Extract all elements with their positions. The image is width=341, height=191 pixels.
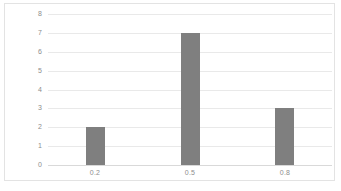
- x-tick-label: 0.8: [280, 168, 290, 178]
- x-tick-label: 0.2: [90, 168, 100, 178]
- gridline: [48, 165, 332, 166]
- y-tick-label: 1: [16, 142, 42, 150]
- y-tick-label: 4: [16, 86, 42, 94]
- bar[interactable]: [275, 108, 294, 165]
- plot-area: [48, 14, 332, 165]
- y-tick-label: 6: [16, 48, 42, 56]
- bar[interactable]: [86, 127, 105, 165]
- y-tick-label: 2: [16, 123, 42, 131]
- y-tick-label: 5: [16, 67, 42, 75]
- x-axis: 0.20.50.8: [48, 168, 332, 180]
- y-tick-label: 7: [16, 29, 42, 37]
- y-tick-label: 8: [16, 10, 42, 18]
- bar[interactable]: [181, 33, 200, 165]
- x-tick-label: 0.5: [185, 168, 195, 178]
- gridline: [48, 14, 332, 15]
- y-tick-label: 3: [16, 104, 42, 112]
- y-tick-label: 0: [16, 161, 42, 169]
- y-axis: 012345678: [12, 14, 42, 165]
- bar-chart-figure: 012345678 0.20.50.8: [0, 0, 341, 191]
